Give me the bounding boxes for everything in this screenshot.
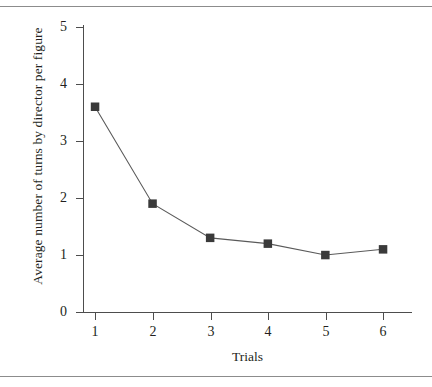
series-line <box>95 107 383 255</box>
data-point-trial-6 <box>379 245 388 254</box>
data-point-trial-2 <box>148 199 157 208</box>
series-plot-area <box>0 8 432 374</box>
page-rule-bottom <box>0 376 432 377</box>
data-point-trial-4 <box>264 239 273 248</box>
page-rule-top <box>0 6 432 7</box>
data-point-trial-5 <box>321 251 330 259</box>
series-markers <box>91 103 388 260</box>
data-point-trial-3 <box>206 234 215 243</box>
data-point-trial-1 <box>91 103 100 112</box>
line-chart-figure: Average number of turns by director per … <box>0 8 432 374</box>
